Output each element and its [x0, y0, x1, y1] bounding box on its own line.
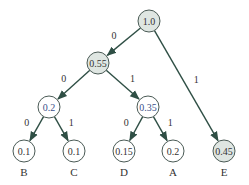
leaf-symbol-label: C: [70, 166, 77, 178]
tree-node-A: 0.2: [162, 140, 184, 162]
edge-bit-label: 0: [124, 117, 129, 128]
node-probability: 1.0: [143, 16, 156, 27]
leaf-symbol-label: A: [169, 166, 177, 178]
huffman-tree-diagram: 01010101 1.00.550.20.350.10.10.150.20.45…: [0, 0, 249, 185]
edge-bit-label: 1: [168, 117, 173, 128]
edge-n02i-C: [54, 117, 68, 141]
edge-bit-label: 0: [111, 30, 116, 41]
edge-root-E: [154, 31, 218, 141]
tree-node-E: 0.45: [213, 140, 235, 162]
tree-node-D: 0.15: [113, 140, 135, 162]
tree-node-root: 1.0: [138, 10, 160, 32]
edge-n035-A: [153, 117, 167, 141]
tree-node-B: 0.1: [13, 140, 35, 162]
edge-bit-label: 1: [130, 73, 135, 84]
node-probability: 0.15: [115, 146, 133, 157]
leaf-symbol-label: D: [120, 166, 128, 178]
tree-node-n035: 0.35: [137, 96, 159, 118]
node-probability: 0.55: [89, 58, 107, 69]
node-probability: 0.45: [215, 146, 233, 157]
node-probability: 0.35: [139, 102, 157, 113]
edge-n02i-B: [30, 117, 44, 141]
edge-n035-D: [130, 117, 143, 141]
node-probability: 0.2: [43, 102, 56, 113]
edge-bit-label: 1: [194, 74, 199, 85]
tree-node-n055: 0.55: [87, 52, 109, 74]
edge-bit-label: 0: [61, 73, 66, 84]
leaf-symbol-label: B: [20, 166, 27, 178]
edge-bit-label: 1: [69, 117, 74, 128]
leaf-labels-layer: BCDAE: [20, 166, 227, 178]
tree-node-C: 0.1: [63, 140, 85, 162]
edge-bit-label: 0: [24, 117, 29, 128]
node-probability: 0.1: [18, 146, 31, 157]
tree-node-n02i: 0.2: [38, 96, 60, 118]
leaf-symbol-label: E: [221, 166, 228, 178]
node-probability: 0.1: [68, 146, 81, 157]
node-probability: 0.2: [167, 146, 180, 157]
